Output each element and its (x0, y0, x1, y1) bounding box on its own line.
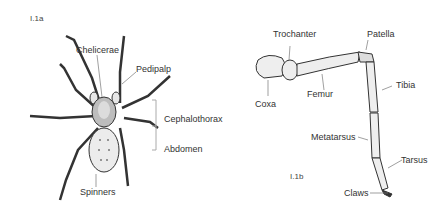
figure-id-b: I.1b (290, 172, 303, 181)
label-abdomen: Abdomen (164, 145, 203, 154)
spider-illustration (30, 36, 170, 200)
label-spinners: Spinners (80, 188, 116, 197)
label-tibia: Tibia (396, 81, 415, 90)
label-cephalothorax: Cephalothorax (164, 115, 223, 124)
label-claws: Claws (344, 189, 369, 198)
label-femur: Femur (307, 90, 333, 99)
label-tarsus: Tarsus (401, 156, 428, 165)
label-pedipalp: Pedipalp (136, 65, 171, 74)
label-chelicerae: Chelicerae (76, 46, 119, 55)
figure-id-a: I.1a (30, 14, 43, 23)
label-metatarsus: Metatarsus (311, 133, 356, 142)
leg-illustration (256, 52, 392, 197)
label-patella: Patella (367, 30, 395, 39)
label-trochanter: Trochanter (273, 30, 316, 39)
label-coxa: Coxa (255, 100, 276, 109)
